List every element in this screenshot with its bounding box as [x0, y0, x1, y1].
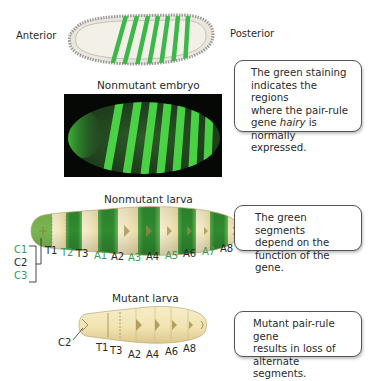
callout-text: The green staining: [251, 67, 355, 80]
nonmutant-larva-title: Nonmutant larva: [104, 193, 193, 205]
callout-text: expressed.: [251, 142, 355, 155]
nonmutant-embryo-image: [64, 94, 222, 177]
mutant-segment-a6: A6: [165, 346, 178, 357]
segment-label-c2: C2: [14, 257, 27, 268]
callout-text: indicates the regions: [251, 80, 355, 105]
segment-label-c3: C3: [14, 270, 27, 281]
segment-label-t2: T2: [61, 247, 73, 258]
callout-green-segments: The green segments depend on the functio…: [234, 205, 362, 251]
embryo-schematic: [66, 10, 216, 68]
callout-text: alternate segments.: [253, 356, 355, 381]
callout-text: The green segments: [255, 212, 355, 237]
segment-label-a6: A6: [183, 248, 196, 259]
mutant-segment-t3: T3: [110, 345, 122, 356]
callout-text: gene hairy is normally: [251, 117, 355, 142]
segment-label-a7: A7: [202, 246, 215, 257]
head-segment-bracket: [28, 238, 44, 286]
anterior-label: Anterior: [16, 30, 56, 41]
callout-text: depend on the: [255, 237, 355, 250]
c2-pointer-line: [72, 326, 86, 342]
segment-label-a2: A2: [111, 251, 124, 262]
callout-text: function of the gene.: [255, 250, 355, 275]
callout-text: where the pair-rule: [251, 105, 355, 118]
gene-name-hairy: hairy: [280, 117, 306, 128]
mutant-larva-title: Mutant larva: [112, 292, 179, 304]
callout-text: results in loss of: [253, 343, 355, 356]
callout-hairy-expression: The green staining indicates the regions…: [234, 60, 362, 132]
segment-label-c1: C1: [14, 244, 27, 255]
segment-label-t1: T1: [45, 245, 57, 256]
segment-label-a5: A5: [165, 250, 178, 261]
mutant-segment-a8: A8: [183, 343, 196, 354]
callout-text: Mutant pair-rule gene: [253, 318, 355, 343]
mutant-label-c2: C2: [58, 337, 71, 348]
segment-label-a4: A4: [146, 251, 159, 262]
nonmutant-embryo-title: Nonmutant embryo: [97, 79, 200, 91]
segment-label-a8: A8: [220, 243, 233, 254]
posterior-label: Posterior: [230, 28, 274, 39]
segment-label-a1: A1: [94, 250, 107, 261]
mutant-segment-a4: A4: [146, 349, 159, 360]
segment-label-a3: A3: [128, 252, 141, 263]
segment-label-t3: T3: [76, 248, 88, 259]
mutant-segment-t1: T1: [96, 342, 108, 353]
mutant-larva-illustration: [78, 305, 210, 345]
callout-mutant-result: Mutant pair-rule gene results in loss of…: [234, 311, 362, 357]
mutant-segment-a2: A2: [128, 349, 141, 360]
